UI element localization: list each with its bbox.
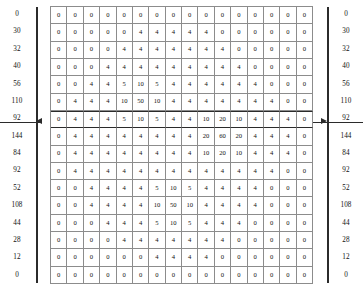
grid-cell: 4 <box>182 146 198 163</box>
grid-cell: 4 <box>280 128 296 145</box>
grid-cell: 0 <box>215 24 231 41</box>
grid-cell: 0 <box>248 215 264 232</box>
grid-cell: 20 <box>231 128 247 145</box>
right-row-label: 84 <box>329 145 363 162</box>
grid-cell: 0 <box>117 267 133 284</box>
grid-cell: 10 <box>231 111 247 128</box>
grid-cell: 4 <box>198 24 214 41</box>
grid-cell: 0 <box>297 59 313 76</box>
grid-cell: 4 <box>215 163 231 180</box>
grid-cell: 4 <box>133 180 149 197</box>
grid-cell: 60 <box>215 128 231 145</box>
right-row-label: 0 <box>329 6 363 23</box>
left-row-label: 44 <box>0 215 34 232</box>
grid-cell: 0 <box>117 249 133 266</box>
right-row-label: 92 <box>329 110 363 127</box>
grid-cell: 4 <box>100 76 116 93</box>
grid-cell: 0 <box>51 215 67 232</box>
value-grid: 0000000000000000000004444400000000004444… <box>50 6 313 284</box>
grid-cell: 4 <box>117 59 133 76</box>
grid-cell: 0 <box>100 249 116 266</box>
grid-cell: 0 <box>166 267 182 284</box>
grid-cell: 4 <box>182 76 198 93</box>
grid-cell: 4 <box>231 76 247 93</box>
grid-cell: 0 <box>231 7 247 24</box>
grid-cell: 4 <box>198 249 214 266</box>
grid-cell: 5 <box>117 76 133 93</box>
grid-cell: 4 <box>198 215 214 232</box>
grid-cell: 0 <box>67 42 83 59</box>
grid-cell: 4 <box>215 215 231 232</box>
grid-cell: 4 <box>182 59 198 76</box>
grid-cell: 5 <box>149 215 165 232</box>
grid-cell: 4 <box>84 163 100 180</box>
grid-cell: 0 <box>51 197 67 214</box>
grid-cell: 0 <box>264 249 280 266</box>
grid-cell: 0 <box>280 267 296 284</box>
grid-cell: 0 <box>51 180 67 197</box>
left-row-label: 32 <box>0 41 34 58</box>
right-row-label: 56 <box>329 76 363 93</box>
right-row-label: 110 <box>329 93 363 110</box>
grid-cell: 4 <box>215 94 231 111</box>
grid-cell: 4 <box>84 146 100 163</box>
grid-cell: 0 <box>280 232 296 249</box>
grid-cell: 4 <box>133 163 149 180</box>
grid-cell: 0 <box>67 249 83 266</box>
grid-cell: 4 <box>182 128 198 145</box>
grid-cell: 0 <box>231 24 247 41</box>
grid-cell: 4 <box>264 94 280 111</box>
grid-cell: 0 <box>51 7 67 24</box>
grid-cell: 4 <box>215 76 231 93</box>
grid-cell: 10 <box>231 146 247 163</box>
left-row-label: 40 <box>0 58 34 75</box>
grid-cell: 4 <box>166 111 182 128</box>
right-row-label: 12 <box>329 249 363 266</box>
grid-cell: 0 <box>67 76 83 93</box>
grid-cell: 0 <box>84 24 100 41</box>
grid-cell: 0 <box>84 249 100 266</box>
grid-cell: 4 <box>84 197 100 214</box>
grid-cell: 4 <box>133 232 149 249</box>
grid-cell: 0 <box>248 267 264 284</box>
grid-cell: 4 <box>166 146 182 163</box>
grid-cell: 4 <box>166 249 182 266</box>
grid-cell: 4 <box>248 146 264 163</box>
grid-cell: 4 <box>100 180 116 197</box>
grid-cell: 5 <box>149 180 165 197</box>
grid-cell: 4 <box>280 146 296 163</box>
grid-cell: 0 <box>84 7 100 24</box>
grid-cell: 4 <box>166 24 182 41</box>
grid-cell: 0 <box>297 146 313 163</box>
grid-cell: 0 <box>297 24 313 41</box>
grid-cell: 20 <box>215 111 231 128</box>
grid-cell: 0 <box>264 215 280 232</box>
grid-cell: 4 <box>231 215 247 232</box>
grid-cell: 4 <box>67 146 83 163</box>
grid-cell: 0 <box>280 94 296 111</box>
grid-cell: 0 <box>297 128 313 145</box>
grid-cell: 4 <box>166 163 182 180</box>
grid-cell: 0 <box>51 42 67 59</box>
grid-cell: 10 <box>133 76 149 93</box>
grid-cell: 0 <box>117 24 133 41</box>
grid-cell: 0 <box>297 111 313 128</box>
grid-cell: 10 <box>133 111 149 128</box>
grid-cell: 0 <box>51 128 67 145</box>
grid-cell: 4 <box>100 94 116 111</box>
left-row-label: 144 <box>0 128 34 145</box>
grid-cell: 0 <box>264 24 280 41</box>
grid-cell: 4 <box>117 163 133 180</box>
grid-cell: 4 <box>182 111 198 128</box>
grid-cell: 0 <box>84 267 100 284</box>
grid-cell: 4 <box>100 163 116 180</box>
grid-cell: 10 <box>198 111 214 128</box>
grid-cell: 0 <box>280 249 296 266</box>
grid-cell: 0 <box>149 267 165 284</box>
grid-cell: 4 <box>133 146 149 163</box>
grid-cell: 0 <box>84 232 100 249</box>
right-row-label: 30 <box>329 23 363 40</box>
grid-cell: 0 <box>264 197 280 214</box>
grid-cell: 5 <box>149 76 165 93</box>
grid-cell: 4 <box>84 180 100 197</box>
